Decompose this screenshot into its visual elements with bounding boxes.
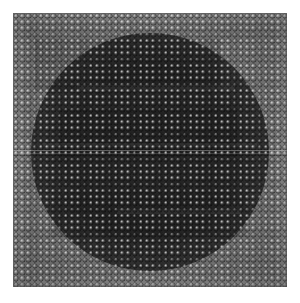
scan-seam-secondary <box>13 153 287 154</box>
scan-seam-primary <box>13 150 287 151</box>
specimen-region <box>13 13 287 287</box>
micrograph-canvas <box>0 0 300 303</box>
scan-seam-shadow <box>13 155 287 156</box>
